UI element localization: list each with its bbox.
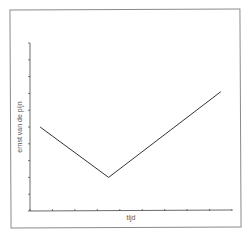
x-axis xyxy=(30,210,232,211)
x-axis-label: tijd xyxy=(127,214,136,222)
line-chart: tijd ernst van de pijn xyxy=(0,0,252,243)
y-axis-label: ernst van de pijn xyxy=(16,101,24,152)
data-line xyxy=(40,92,221,178)
